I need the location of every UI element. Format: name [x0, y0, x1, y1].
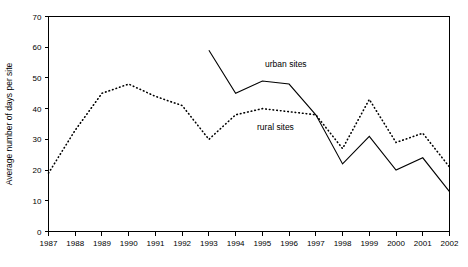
x-axis: 1987198819891990199119921993199419951996…	[40, 232, 459, 248]
x-tick-label: 1997	[307, 239, 325, 248]
y-tick-label: 0	[37, 228, 42, 237]
x-tick-label: 1996	[280, 239, 298, 248]
y-tick-label: 60	[33, 43, 42, 52]
x-tick-label: 1989	[93, 239, 111, 248]
x-tick-label: 1992	[173, 239, 191, 248]
y-axis-title-text: Average number of days per site	[4, 62, 14, 185]
y-tick-label: 50	[33, 74, 42, 83]
series-lines	[49, 50, 450, 191]
y-axis-title: Average number of days per site	[4, 62, 14, 185]
y-tick-label: 30	[33, 135, 42, 144]
y-axis: 010203040506070	[33, 13, 450, 237]
y-tick-label: 70	[33, 13, 42, 22]
x-tick-label: 1987	[40, 239, 58, 248]
x-tick-label: 2000	[387, 239, 405, 248]
y-tick-label: 40	[33, 105, 42, 114]
line-chart: 010203040506070 198719881989199019911992…	[0, 0, 468, 267]
x-tick-label: 1988	[66, 239, 84, 248]
series-label-urban-sites: urban sites	[265, 59, 307, 69]
x-tick-label: 1994	[227, 239, 245, 248]
x-tick-label: 1995	[253, 239, 271, 248]
series-line-rural-sites	[49, 84, 450, 173]
y-tick-label: 10	[33, 197, 42, 206]
x-tick-label: 2001	[414, 239, 432, 248]
series-label-rural-sites: rural sites	[257, 122, 294, 132]
chart-container: 010203040506070 198719881989199019911992…	[0, 0, 468, 267]
x-tick-label: 1991	[147, 239, 165, 248]
series-line-urban-sites	[209, 50, 450, 191]
x-tick-label: 2002	[441, 239, 459, 248]
y-tick-label: 20	[33, 166, 42, 175]
x-tick-label: 1990	[120, 239, 138, 248]
x-tick-label: 1993	[200, 239, 218, 248]
x-tick-label: 1998	[334, 239, 352, 248]
x-tick-label: 1999	[360, 239, 378, 248]
